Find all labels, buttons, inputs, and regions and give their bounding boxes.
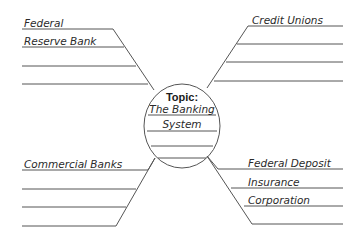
branch-top-right bbox=[207, 26, 343, 88]
bottom-right-text-1: Federal Deposit bbox=[248, 157, 332, 169]
top-left-text-1: Federal bbox=[24, 17, 63, 29]
bottom-right-text-2: Insurance bbox=[248, 176, 300, 188]
top-right-text-1: Credit Unions bbox=[252, 14, 323, 26]
topic-line-text: System bbox=[162, 118, 201, 130]
bottom-left-text-1: Commercial Banks bbox=[24, 158, 123, 170]
top-left-text-2: Reserve Bank bbox=[24, 35, 97, 47]
bottom-right-text-3: Corporation bbox=[248, 194, 310, 206]
spider-map: Topic: The Banking System Federal Reserv… bbox=[0, 0, 357, 243]
topic-heading: Topic: bbox=[166, 91, 198, 103]
topic-line-text: The Banking bbox=[149, 103, 215, 115]
